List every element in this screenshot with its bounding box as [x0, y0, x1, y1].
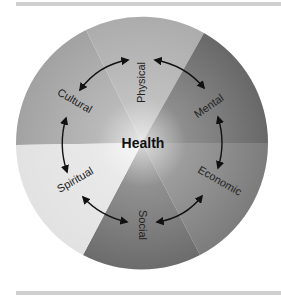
health-wheel-diagram: Health Physical Mental Economic Social S…	[0, 0, 281, 303]
label-physical: Physical	[135, 62, 147, 103]
label-social: Social	[137, 210, 149, 240]
center-label: Health	[122, 135, 165, 151]
